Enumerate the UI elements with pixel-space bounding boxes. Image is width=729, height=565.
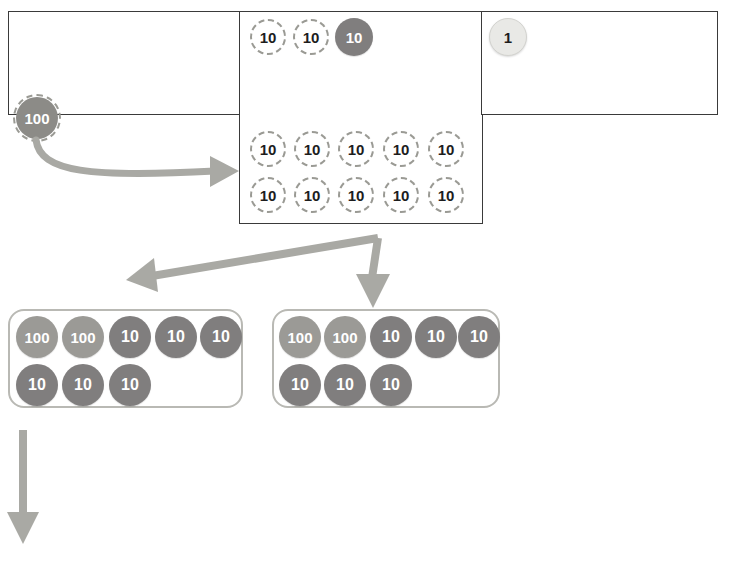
counter-label: 10 [382,377,400,393]
group-right-counter-4[interactable]: 10 [415,316,457,358]
counter-label: 100 [287,330,312,345]
group-left-counter-3[interactable]: 10 [109,316,151,358]
tens-counter-outline-9[interactable]: 10 [294,177,330,213]
counter-label: 10 [393,142,410,157]
counter-label: 10 [74,377,92,393]
tens-counter-outline-10[interactable]: 10 [338,177,374,213]
group-left-counter-2[interactable]: 100 [62,316,104,358]
counter-label: 10 [348,142,365,157]
tens-counter-outline-12[interactable]: 10 [428,177,464,213]
group-left-counter-8[interactable]: 10 [109,364,151,406]
counter-label: 10 [121,377,139,393]
counter-label: 10 [393,188,410,203]
counter-label: 10 [303,30,320,45]
dragged-hundred-counter[interactable]: 100 [16,97,58,139]
counter-label: 10 [438,188,455,203]
tens-counter-outline-6[interactable]: 10 [383,131,419,167]
tens-counter-outline-1[interactable]: 10 [250,19,286,55]
counter-label: 10 [291,377,309,393]
counter-label: 10 [470,329,488,345]
group-right-counter-1[interactable]: 100 [279,316,321,358]
tens-counter-outline-5[interactable]: 10 [338,131,374,167]
tens-counter-outline-4[interactable]: 10 [294,131,330,167]
diagram-canvas: 10 10 10 10 10 10 10 10 10 10 10 10 10 1 [0,0,729,565]
group-left-counter-6[interactable]: 10 [16,364,58,406]
arrow-split-group [110,232,410,312]
group-right-counter-7[interactable]: 10 [324,364,366,406]
counter-label: 100 [70,330,95,345]
counter-label: 100 [332,330,357,345]
counter-label: 10 [346,30,363,45]
group-right-counter-5[interactable]: 10 [458,316,500,358]
counter-label: 10 [212,329,230,345]
group-right-counter-2[interactable]: 100 [324,316,366,358]
group-left-counter-5[interactable]: 10 [200,316,242,358]
tens-counter-outline-3[interactable]: 10 [250,131,286,167]
counter-label: 10 [121,329,139,345]
counter-label: 100 [24,330,49,345]
counter-label: 10 [348,188,365,203]
tens-counter-solid-1[interactable]: 10 [335,18,373,56]
counter-label: 10 [167,329,185,345]
tens-counter-outline-11[interactable]: 10 [383,177,419,213]
counter-label: 10 [382,329,400,345]
group-left-counter-7[interactable]: 10 [62,364,104,406]
ones-counter-1[interactable]: 1 [489,18,527,56]
counter-label: 10 [260,142,277,157]
tens-counter-outline-8[interactable]: 10 [250,177,286,213]
counter-label: 10 [304,188,321,203]
group-left-counter-1[interactable]: 100 [16,316,58,358]
tens-counter-outline-7[interactable]: 10 [428,131,464,167]
arrow-group-continue-down [2,428,62,548]
counter-label: 10 [336,377,354,393]
counter-label: 10 [28,377,46,393]
counter-label: 10 [260,30,277,45]
group-left-counter-4[interactable]: 10 [155,316,197,358]
counter-label: 1 [504,30,512,45]
counter-label: 100 [24,111,49,126]
counter-label: 10 [304,142,321,157]
group-right-counter-8[interactable]: 10 [370,364,412,406]
counter-label: 10 [438,142,455,157]
group-right-counter-3[interactable]: 10 [370,316,412,358]
counter-label: 10 [260,188,277,203]
group-right-counter-6[interactable]: 10 [279,364,321,406]
counter-label: 10 [427,329,445,345]
tens-counter-outline-2[interactable]: 10 [293,19,329,55]
